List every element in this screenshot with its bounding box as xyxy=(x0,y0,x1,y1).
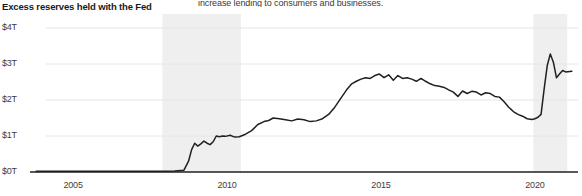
x-axis-tick-label: 2015 xyxy=(371,180,390,190)
y-axis-tick-label: $4T xyxy=(2,22,17,32)
gridlines xyxy=(46,28,578,136)
recession-bands xyxy=(162,14,567,172)
y-axis-tick-label: $3T xyxy=(2,58,17,68)
x-axis-tick-label: 2010 xyxy=(217,180,236,190)
chart-container: increase lending to consumers and busine… xyxy=(0,0,582,196)
x-axis-tick-label: 2020 xyxy=(525,180,544,190)
line-chart-plot xyxy=(0,0,582,196)
x-axis-tick-label: 2005 xyxy=(63,180,82,190)
y-axis-tick-label: $0T xyxy=(2,166,17,176)
y-axis-tick-label: $1T xyxy=(2,130,17,140)
data-line xyxy=(36,54,572,171)
y-axis-tick-label: $2T xyxy=(2,94,17,104)
